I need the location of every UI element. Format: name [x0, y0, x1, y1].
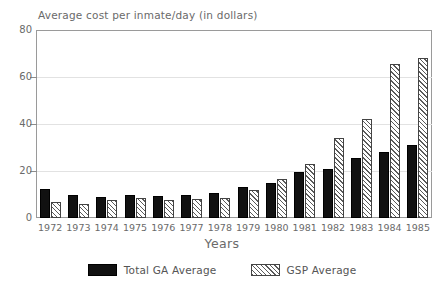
bar — [96, 197, 106, 218]
x-tick-label: 1979 — [234, 222, 262, 233]
y-tick-label: 40 — [2, 118, 32, 129]
bar — [351, 158, 361, 218]
chart-title: Average cost per inmate/day (in dollars) — [38, 9, 258, 21]
x-tick-label: 1978 — [206, 222, 234, 233]
x-tick-label: 1972 — [36, 222, 64, 233]
legend-label: Total GA Average — [124, 264, 217, 276]
bar — [323, 169, 333, 218]
x-tick-label: 1974 — [93, 222, 121, 233]
chart-legend: Total GA AverageGSP Average — [0, 264, 444, 276]
bar — [164, 200, 174, 218]
bar — [181, 195, 191, 219]
bar — [136, 198, 146, 218]
bar — [79, 204, 89, 218]
x-axis-title: Years — [0, 236, 444, 251]
bar — [153, 196, 163, 218]
x-tick-label: 1981 — [291, 222, 319, 233]
bar — [294, 172, 304, 218]
y-tick-label: 60 — [2, 71, 32, 82]
bar — [209, 193, 219, 218]
x-tick-label: 1984 — [375, 222, 403, 233]
bar — [40, 189, 50, 218]
x-tick-label: 1982 — [319, 222, 347, 233]
legend-swatch — [88, 264, 117, 276]
bar — [51, 202, 61, 218]
x-tick-label: 1985 — [404, 222, 432, 233]
x-tick-label: 1976 — [149, 222, 177, 233]
bar — [238, 187, 248, 218]
y-tick-label: 80 — [2, 24, 32, 35]
x-tick-label: 1975 — [121, 222, 149, 233]
bar — [407, 145, 417, 218]
bar — [192, 199, 202, 218]
bar — [277, 179, 287, 218]
bar — [220, 198, 230, 218]
bar — [362, 119, 372, 218]
y-tick-label: 0 — [2, 212, 32, 223]
legend-entry: GSP Average — [251, 264, 357, 276]
x-tick-label: 1980 — [262, 222, 290, 233]
bar — [107, 200, 117, 218]
legend-label: GSP Average — [287, 264, 357, 276]
bar — [125, 195, 135, 219]
bar — [249, 190, 259, 218]
bar — [305, 164, 315, 218]
bar — [334, 138, 344, 218]
bar — [379, 152, 389, 218]
bars-layer — [36, 30, 432, 218]
legend-entry: Total GA Average — [88, 264, 217, 276]
legend-swatch — [251, 264, 280, 276]
bar — [68, 195, 78, 219]
bar — [266, 183, 276, 218]
bar — [418, 58, 428, 218]
x-tick-label: 1983 — [347, 222, 375, 233]
bar-chart: Average cost per inmate/day (in dollars)… — [0, 0, 444, 293]
y-tick-label: 20 — [2, 165, 32, 176]
x-tick-label: 1977 — [177, 222, 205, 233]
bar — [390, 64, 400, 218]
x-tick-label: 1973 — [64, 222, 92, 233]
